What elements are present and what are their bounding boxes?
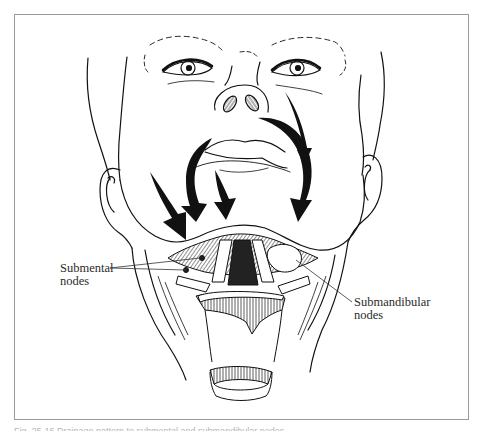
right-ear [348, 155, 382, 242]
arrow-3 [214, 170, 236, 220]
drainage-arrows [150, 92, 312, 240]
right-eye [272, 60, 322, 94]
head-outline-right [373, 52, 384, 160]
left-eye [163, 60, 214, 84]
head-outline-left [87, 58, 110, 180]
left-ear [100, 168, 132, 248]
arrow-2 [181, 138, 212, 222]
cricoid-cartilage [210, 366, 272, 384]
mouth [194, 140, 290, 172]
dissected-region [158, 234, 326, 401]
right-brow [272, 37, 345, 56]
left-brow [150, 36, 222, 50]
label-submandibular-nodes: Submandibular nodes [354, 296, 430, 322]
neck-right [310, 242, 348, 372]
leader-submental-2 [110, 268, 186, 270]
anatomical-illustration [0, 0, 479, 431]
label-submental-nodes: Submental nodes [60, 262, 113, 288]
neck-left [132, 248, 186, 380]
arrow-1 [150, 172, 186, 240]
figure-caption: Fig. 25-16 Drainage pattern to submental… [14, 424, 284, 431]
nose [215, 62, 269, 114]
